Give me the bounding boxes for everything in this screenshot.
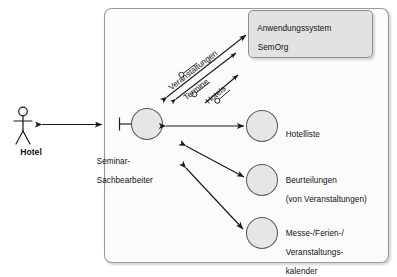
application-system-line1: Anwendungssystem <box>257 24 331 33</box>
node-beurteilungen-label: Beurteilungen (von Veranstaltungen) <box>281 166 367 204</box>
node-kalender-line3: kalender <box>286 267 318 276</box>
application-system-line2: SemOrg <box>258 43 289 52</box>
central-node-label-line2: Sachbearbeiter <box>97 176 153 185</box>
node-beurteilungen-line1: Beurteilungen <box>286 176 337 185</box>
node-hotelliste-line1: Hotelliste <box>286 130 320 139</box>
node-hotelliste-circle <box>247 111 278 142</box>
node-kalender-circle <box>247 218 278 249</box>
actor-hotel-icon <box>14 107 32 144</box>
actor-label: Hotel <box>8 148 54 158</box>
node-beurteilungen-circle <box>247 165 278 196</box>
node-kalender-line2: Veranstaltungs- <box>286 248 344 257</box>
central-node-label-line1: Seminar- <box>97 157 131 166</box>
node-beurteilungen-line2: (von Veranstaltungen) <box>286 195 367 204</box>
central-node-label: Seminar- Sachbearbeiter <box>92 147 154 185</box>
application-system-box-label: Anwendungssystem SemOrg <box>253 14 363 52</box>
node-hotelliste-label: Hotelliste <box>281 120 320 139</box>
node-kalender-line1: Messe-/Ferien-/ <box>286 229 344 238</box>
node-kalender-label: Messe-/Ferien-/ Veranstaltungs- kalender <box>281 219 344 277</box>
